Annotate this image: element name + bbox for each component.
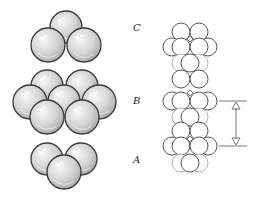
column-sphere xyxy=(190,38,208,56)
stacking-diagram: C B A xyxy=(0,0,254,199)
column-sphere xyxy=(181,154,199,172)
arrow-up-icon xyxy=(232,102,240,109)
column-sphere xyxy=(172,38,190,56)
repeat-distance-marker xyxy=(219,101,247,146)
layer-a-spheres xyxy=(31,143,97,189)
sphere xyxy=(30,100,64,134)
column-sphere xyxy=(181,54,199,72)
layer-c-spheres xyxy=(31,11,101,62)
column-sphere xyxy=(172,70,190,88)
sphere xyxy=(65,100,99,134)
layer-b-spheres xyxy=(13,70,116,134)
sphere xyxy=(67,28,101,62)
layer-label-c: C xyxy=(133,22,141,33)
column-sphere xyxy=(190,70,208,88)
side-view-column xyxy=(163,23,217,172)
sphere xyxy=(47,155,81,189)
arrow-down-icon xyxy=(232,138,240,145)
layer-label-a: A xyxy=(132,154,140,165)
column-sphere xyxy=(172,92,190,110)
layer-label-b: B xyxy=(132,95,140,106)
column-sphere xyxy=(190,92,208,110)
sphere xyxy=(31,28,65,62)
